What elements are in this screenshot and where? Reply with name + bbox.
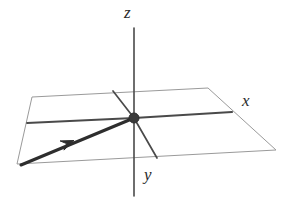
z-axis-label: z (124, 4, 131, 21)
y-axis-label: y (144, 166, 152, 183)
figure-canvas: z x y (0, 0, 296, 205)
x-axis-label: x (242, 92, 250, 109)
origin-point-marker (129, 113, 139, 123)
xy-plane-parallelogram (17, 88, 276, 164)
